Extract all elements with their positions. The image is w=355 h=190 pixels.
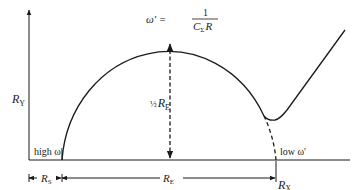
svg-text:1: 1 [203, 7, 208, 18]
svg-text:RS: RS [40, 172, 52, 186]
semicircle-dashed-extension [264, 116, 276, 160]
impedance-diagram: RY ω' = 1 CΣR ½RE high ω' low ω' RS RE [0, 0, 355, 190]
rs-dimension: RS [29, 172, 62, 186]
re-dimension: RE [62, 161, 276, 186]
low-frequency-label: low ω' [280, 146, 306, 157]
y-axis-label: RY [11, 92, 25, 108]
x-axis-label: RX [277, 178, 291, 190]
svg-text:RE: RE [162, 172, 174, 186]
warburg-tail-line [264, 30, 345, 120]
svg-text:ω' =: ω' = [146, 13, 166, 25]
half-re-label: ½RE [150, 96, 170, 112]
peak-frequency-label: ω' = 1 CΣR [146, 7, 218, 34]
svg-text:CΣR: CΣR [193, 20, 212, 34]
high-frequency-label: high ω' [34, 146, 63, 157]
